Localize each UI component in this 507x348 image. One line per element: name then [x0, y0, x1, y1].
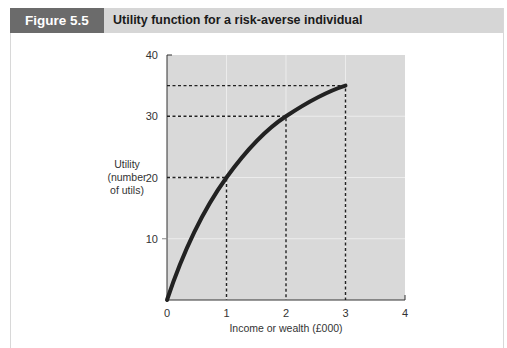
- y-axis-label-line2: (number: [107, 171, 147, 183]
- y-tick-label: 10: [146, 233, 158, 245]
- x-axis-label: Income or wealth (£000): [229, 322, 342, 334]
- x-tick-label: 2: [283, 307, 289, 319]
- y-tick-label: 30: [146, 110, 158, 122]
- y-tick-label: 40: [146, 49, 158, 61]
- y-axis-label-line3: of utils): [110, 184, 144, 196]
- x-tick-label: 1: [223, 307, 229, 319]
- x-tick-label: 4: [402, 307, 408, 319]
- y-tick-label: 20: [146, 172, 158, 184]
- x-tick-label: 3: [342, 307, 348, 319]
- x-tick-label: 0: [164, 307, 170, 319]
- y-axis-label-line1: Utility: [114, 158, 140, 170]
